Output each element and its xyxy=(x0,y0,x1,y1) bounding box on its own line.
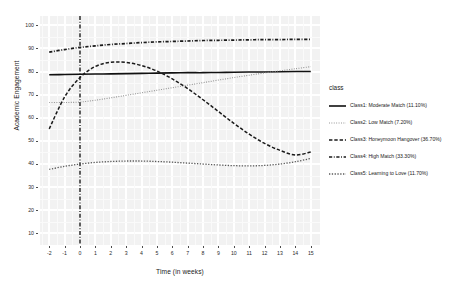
y-tick-label: 20 xyxy=(0,208,34,213)
legend-item-class1[interactable]: Class1: Moderate Match (11.10%) xyxy=(329,97,455,114)
legend-item-class4[interactable]: Class4: High Match (33.30%) xyxy=(329,148,455,165)
y-axis-label: Academic Engagement xyxy=(13,36,20,156)
legend-item-class2[interactable]: Class2: Low Match (7.20%) xyxy=(329,114,455,131)
series-layer xyxy=(40,16,320,245)
legend-item-label: Class5: Learning to Love (11.70%) xyxy=(350,171,428,176)
y-tick-mark xyxy=(36,164,38,165)
legend-key-icon xyxy=(329,153,346,161)
legend-items: Class1: Moderate Match (11.10%)Class2: L… xyxy=(329,97,455,182)
x-tick-mark xyxy=(280,246,281,248)
legend-item-label: Class2: Low Match (7.20%) xyxy=(350,120,412,125)
x-tick-mark xyxy=(234,246,235,248)
x-tick-mark xyxy=(249,246,250,248)
legend-key-icon xyxy=(329,136,346,144)
x-tick-mark xyxy=(265,246,266,248)
legend-item-class3[interactable]: Class3: Honeymoon Hangover (36.70%) xyxy=(329,131,455,148)
x-tick-mark xyxy=(126,246,127,248)
chart-root: 102030405060708090100-2-1012345678910111… xyxy=(0,0,457,293)
series-line-class3 xyxy=(49,62,311,155)
x-tick-mark xyxy=(295,246,296,248)
x-tick-mark xyxy=(188,246,189,248)
legend-item-class5[interactable]: Class5: Learning to Love (11.70%) xyxy=(329,165,455,182)
legend-key-icon xyxy=(329,102,346,110)
legend-item-label: Class1: Moderate Match (11.10%) xyxy=(350,103,427,108)
legend-item-label: Class4: High Match (33.30%) xyxy=(350,154,416,159)
series-line-class1 xyxy=(49,72,311,75)
y-tick-label: 30 xyxy=(0,185,34,190)
x-tick-mark xyxy=(172,246,173,248)
x-tick-mark xyxy=(95,246,96,248)
x-tick-mark xyxy=(65,246,66,248)
plot-panel xyxy=(40,16,320,245)
x-tick-label: 15 xyxy=(301,251,321,256)
y-tick-label: 40 xyxy=(0,161,34,166)
y-tick-mark xyxy=(36,72,38,73)
x-tick-mark xyxy=(80,246,81,248)
x-tick-mark xyxy=(49,246,50,248)
y-tick-mark xyxy=(36,95,38,96)
x-tick-mark xyxy=(218,246,219,248)
series-line-class5 xyxy=(49,158,311,169)
y-tick-mark xyxy=(36,187,38,188)
legend: class Class1: Moderate Match (11.10%)Cla… xyxy=(329,84,455,182)
series-line-class4 xyxy=(49,39,311,52)
legend-item-label: Class3: Honeymoon Hangover (36.70%) xyxy=(350,137,441,142)
legend-title: class xyxy=(329,84,455,91)
y-tick-mark xyxy=(36,118,38,119)
x-axis-label: Time (in weeks) xyxy=(40,268,320,275)
x-tick-mark xyxy=(311,246,312,248)
x-tick-mark xyxy=(157,246,158,248)
x-tick-mark xyxy=(142,246,143,248)
y-tick-mark xyxy=(36,25,38,26)
y-tick-mark xyxy=(36,141,38,142)
legend-key-icon xyxy=(329,119,346,127)
y-tick-mark xyxy=(36,233,38,234)
legend-key-icon xyxy=(329,170,346,178)
y-tick-label: 100 xyxy=(0,23,34,28)
y-tick-label: 10 xyxy=(0,231,34,236)
x-tick-mark xyxy=(111,246,112,248)
y-tick-mark xyxy=(36,48,38,49)
y-tick-mark xyxy=(36,210,38,211)
x-tick-mark xyxy=(203,246,204,248)
